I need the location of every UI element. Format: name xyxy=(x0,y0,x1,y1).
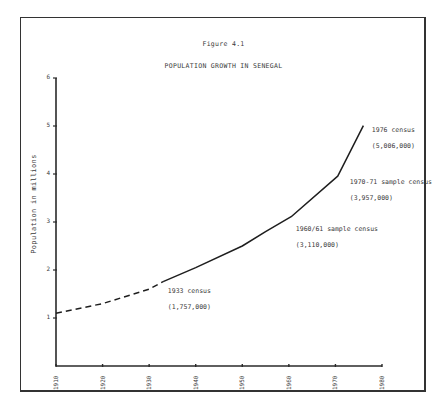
annotation-text: 1960/61 sample census xyxy=(296,225,378,233)
x-tick-label: 1950 xyxy=(238,376,245,390)
annotation-text: 1976 census xyxy=(372,126,415,134)
annotation-1933-census: 1933 census (1,757,000) xyxy=(160,279,211,311)
annotation-text: 1970-71 sample census xyxy=(350,178,432,186)
y-tick-label: 5 xyxy=(40,121,50,128)
x-tick-label: 1920 xyxy=(99,376,106,390)
x-tick-label: 1960 xyxy=(285,376,292,390)
y-tick-label: 6 xyxy=(40,73,50,80)
annotation-value: (3,110,000) xyxy=(296,241,339,249)
x-tick-label: 1980 xyxy=(378,376,385,390)
x-tick-label: 1910 xyxy=(52,376,59,390)
dashed-estimate-line xyxy=(56,282,163,314)
chart-plot-area xyxy=(0,0,447,414)
annotation-value: (1,757,000) xyxy=(168,303,211,311)
annotation-1976-census: 1976 census (5,006,000) xyxy=(364,118,415,150)
annotation-value: (5,006,000) xyxy=(372,142,415,150)
x-tick-label: 1940 xyxy=(192,376,199,390)
annotation-1960-census: 1960/61 sample census (3,110,000) xyxy=(288,217,378,249)
census-line xyxy=(163,126,363,282)
x-tick-label: 1970 xyxy=(331,376,338,390)
annotation-text: 1933 census xyxy=(168,287,211,295)
y-tick-label: 2 xyxy=(40,265,50,272)
y-tick-label: 3 xyxy=(40,217,50,224)
x-tick-label: 1930 xyxy=(145,376,152,390)
y-tick-label: 1 xyxy=(40,313,50,320)
y-tick-label: 4 xyxy=(40,169,50,176)
annotation-1970-census: 1970-71 sample census (3,957,000) xyxy=(342,170,432,202)
annotation-value: (3,957,000) xyxy=(350,194,393,202)
